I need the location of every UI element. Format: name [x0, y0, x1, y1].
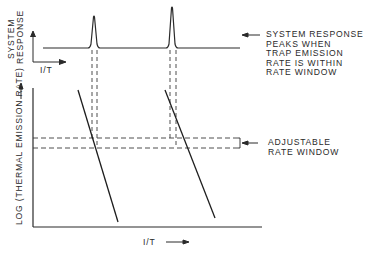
window-note-line: RATE WINDOW	[268, 148, 339, 158]
bottom-plot-axes	[33, 88, 262, 227]
top-x-axis-label: I/T	[40, 66, 52, 76]
annotation-arrows	[19, 33, 260, 244]
peak-note-line: RATE WINDOW	[266, 68, 363, 78]
emission-rate-lines	[78, 90, 215, 222]
rate-window	[33, 138, 238, 148]
system-response-curve	[43, 7, 240, 48]
bottom-y-axis-label: LOG (THERMAL EMISSION RATE)	[14, 67, 24, 225]
peak-annotation: SYSTEM RESPONSE PEAKS WHEN TRAP EMISSION…	[266, 30, 363, 78]
peak-guide-dashes	[92, 50, 176, 148]
rate-window-annotation: ADJUSTABLE RATE WINDOW	[268, 138, 339, 157]
bottom-x-axis-label: I/T	[143, 238, 155, 248]
rate-window-bracket	[238, 138, 240, 148]
top-y-axis-label-line2: RESPONSE	[15, 10, 25, 64]
